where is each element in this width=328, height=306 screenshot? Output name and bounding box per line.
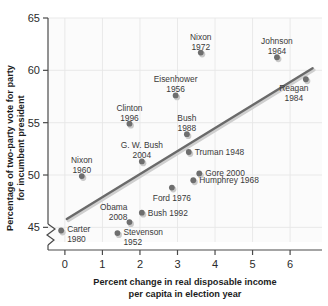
data-point-label: Stevenson bbox=[123, 227, 163, 237]
data-point-label: 1984 bbox=[285, 93, 304, 103]
data-point-label: 1956 bbox=[166, 84, 185, 94]
x-tick-label: 6 bbox=[287, 258, 293, 270]
data-point bbox=[169, 185, 175, 191]
y-tick-label: 50 bbox=[28, 169, 40, 181]
data-point-label: 1964 bbox=[268, 46, 287, 56]
data-point-label: 1960 bbox=[72, 165, 91, 175]
x-tick-label: 1 bbox=[99, 258, 105, 270]
data-point-label: Carter bbox=[67, 224, 90, 234]
scatter-plot: 0123456 4550556065 Carter1980Nixon1960St… bbox=[0, 0, 328, 306]
y-tick-label: 45 bbox=[28, 221, 40, 233]
x-tick-label: 4 bbox=[212, 258, 218, 270]
x-axis-title-line1: Percent change in real disposable income bbox=[93, 277, 276, 287]
data-point bbox=[58, 228, 64, 234]
y-axis-title-line2: for incumbent president bbox=[16, 95, 26, 200]
y-tick-label: 65 bbox=[28, 12, 40, 24]
data-point-label: 1952 bbox=[123, 237, 142, 247]
x-axis-title-line2: per capita in election year bbox=[129, 289, 242, 299]
data-point-label: Truman 1948 bbox=[195, 147, 245, 157]
chart-figure: 0123456 4550556065 Carter1980Nixon1960St… bbox=[0, 0, 328, 306]
y-tick-label: 55 bbox=[28, 117, 40, 129]
y-axis-title-line1: Percentage of two-party vote for party bbox=[5, 64, 15, 231]
data-point bbox=[303, 76, 309, 82]
data-point-label: Obama bbox=[100, 202, 128, 212]
data-point-label: Nixon bbox=[71, 155, 93, 165]
x-tick-label: 3 bbox=[174, 258, 180, 270]
data-point-label: Ford 1976 bbox=[153, 193, 192, 203]
data-point-label: Eisenhower bbox=[154, 74, 198, 84]
data-point-label: Gore 2000 bbox=[205, 168, 245, 178]
data-point-label: Clinton bbox=[116, 103, 142, 113]
x-tick-label: 5 bbox=[249, 258, 255, 270]
data-point-label: 1972 bbox=[191, 42, 210, 52]
data-point-label: Johnson bbox=[261, 36, 293, 46]
data-point-label: Nixon bbox=[190, 32, 212, 42]
data-point-label: Reagan bbox=[279, 83, 309, 93]
data-point-label: 1988 bbox=[178, 123, 197, 133]
data-point bbox=[186, 149, 192, 155]
data-point bbox=[115, 230, 121, 236]
data-point-label: 1980 bbox=[67, 234, 86, 244]
data-point-label: 1996 bbox=[120, 113, 139, 123]
data-point-label: Bush bbox=[177, 113, 196, 123]
data-point-label: 2004 bbox=[133, 150, 152, 160]
x-tick-label: 0 bbox=[62, 258, 68, 270]
x-tick-label: 2 bbox=[137, 258, 143, 270]
data-point bbox=[139, 210, 145, 216]
data-point-label: G. W. Bush bbox=[121, 140, 164, 150]
y-tick-label: 60 bbox=[28, 64, 40, 76]
data-point-label: 2008 bbox=[109, 212, 128, 222]
data-point bbox=[190, 177, 196, 183]
data-point-label: Bush 1992 bbox=[148, 208, 188, 218]
